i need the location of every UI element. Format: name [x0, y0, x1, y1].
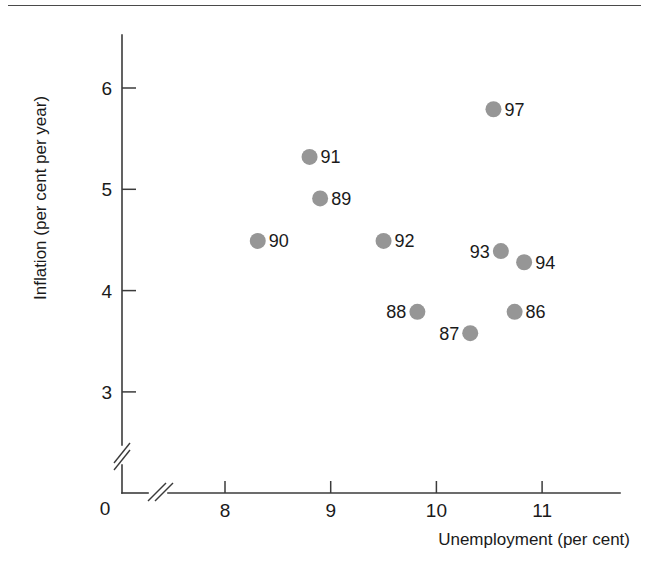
data-point-marker-94	[516, 254, 532, 270]
x-axis-break-icon	[148, 483, 173, 501]
data-point-marker-87	[462, 325, 478, 341]
data-point-88: 88	[386, 302, 425, 322]
data-point-91: 91	[302, 147, 341, 167]
y-tick-label-6: 6	[101, 78, 112, 99]
data-point-92: 92	[376, 231, 415, 251]
data-point-94: 94	[516, 253, 555, 273]
data-point-97: 97	[485, 100, 524, 120]
data-point-label-92: 92	[395, 231, 415, 251]
data-point-marker-90	[250, 233, 266, 249]
origin-tick-label: 0	[100, 498, 111, 519]
x-tick-label-8: 8	[220, 500, 231, 521]
data-point-label-90: 90	[269, 231, 289, 251]
data-point-label-93: 93	[470, 242, 490, 262]
data-point-89: 89	[312, 189, 351, 209]
axis-ticks-group: 8910113456	[101, 78, 552, 521]
x-tick-label-10: 10	[426, 500, 447, 521]
data-point-label-89: 89	[331, 189, 351, 209]
data-point-marker-92	[376, 233, 392, 249]
data-point-marker-86	[507, 304, 523, 320]
scatter-plot-canvas: 8910113456 86878889909192939497 0 Unempl…	[0, 0, 649, 567]
data-point-marker-88	[409, 304, 425, 320]
data-points-group: 86878889909192939497	[250, 100, 555, 344]
data-point-label-91: 91	[321, 147, 341, 167]
scatter-plot-figure: 8910113456 86878889909192939497 0 Unempl…	[0, 0, 649, 567]
data-point-86: 86	[507, 302, 546, 322]
y-tick-label-3: 3	[101, 382, 112, 403]
data-point-93: 93	[470, 242, 509, 262]
y-tick-label-4: 4	[101, 281, 112, 302]
data-point-label-94: 94	[535, 253, 555, 273]
y-axis-title: Inflation (per cent per year)	[31, 96, 50, 300]
data-point-marker-93	[493, 243, 509, 259]
x-tick-label-11: 11	[532, 500, 552, 521]
data-point-marker-91	[302, 149, 318, 165]
data-point-label-88: 88	[386, 302, 406, 322]
data-point-90: 90	[250, 231, 289, 251]
data-point-label-87: 87	[439, 324, 459, 344]
data-point-label-97: 97	[504, 100, 524, 120]
data-point-label-86: 86	[526, 302, 546, 322]
data-point-87: 87	[439, 324, 478, 344]
y-tick-label-5: 5	[101, 179, 112, 200]
x-tick-label-9: 9	[325, 500, 336, 521]
data-point-marker-97	[485, 101, 501, 117]
data-point-marker-89	[312, 190, 328, 206]
x-axis-title: Unemployment (per cent)	[438, 530, 630, 549]
